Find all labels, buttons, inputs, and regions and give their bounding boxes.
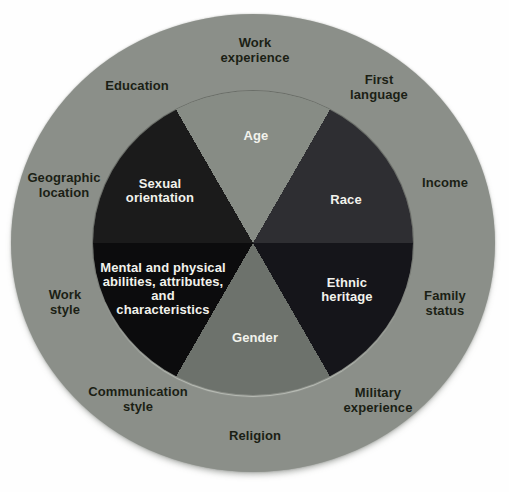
diversity-wheel-diagram: Work experience Education First language… [0, 0, 509, 492]
inner-wheel [93, 91, 413, 395]
